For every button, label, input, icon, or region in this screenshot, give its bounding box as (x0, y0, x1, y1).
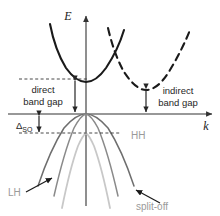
label-pointer-arrows (26, 178, 160, 203)
band-structure-figure: E k direct band gap indirect band (0, 0, 220, 216)
direct-conduction-band-curve (50, 24, 124, 82)
axes-group (8, 16, 212, 206)
conduction-bands-group (50, 24, 190, 90)
direct-band-gap-label-line2: band gap (23, 96, 63, 107)
direct-band-gap-label-line1: direct (31, 84, 55, 95)
energy-axis-label: E (63, 9, 72, 23)
spin-orbit-splitting-annotation: ΔSO (16, 116, 39, 133)
band-diagram-svg: E k direct band gap indirect band (0, 0, 220, 216)
indirect-band-gap-label-line1: indirect (163, 85, 194, 96)
delta-so-label: ΔSO (16, 120, 33, 133)
indirect-band-gap-label-line2: band gap (158, 97, 198, 108)
wavevector-axis-label: k (203, 119, 209, 133)
light-hole-pointer-arrow (26, 178, 52, 192)
split-off-label: split-off (136, 201, 168, 212)
light-hole-label: LH (8, 187, 21, 198)
indirect-conduction-band-curve (108, 28, 190, 90)
heavy-hole-label: HH (131, 130, 145, 141)
direct-band-gap-annotation: direct band gap (23, 81, 75, 112)
